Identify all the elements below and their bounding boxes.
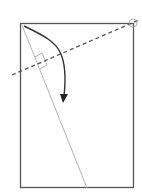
folding-diagram: [0, 0, 142, 194]
